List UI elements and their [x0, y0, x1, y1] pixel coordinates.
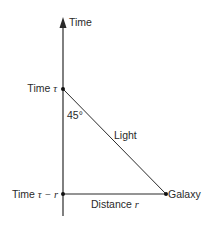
point-time-tau	[61, 87, 65, 91]
point-time-tau-minus-r	[61, 192, 65, 196]
axis-label-time: Time	[69, 16, 92, 28]
light-ray	[63, 89, 166, 194]
light-label: Light	[114, 129, 137, 141]
label-time-tau-minus-r: Time τ − r	[12, 188, 59, 200]
spacetime-diagram: Time Time τ 45° Light Time τ − r Galaxy …	[0, 0, 212, 229]
angle-label: 45°	[67, 109, 83, 121]
label-time-tau: Time τ	[27, 82, 58, 94]
time-axis-arrow-icon	[60, 17, 67, 28]
galaxy-label: Galaxy	[168, 188, 201, 200]
distance-label: Distance r	[91, 198, 140, 210]
